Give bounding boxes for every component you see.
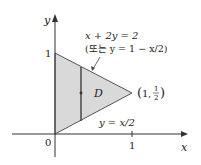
x-axis-arrow-icon xyxy=(181,131,188,137)
svg-text:1: 1 xyxy=(154,85,158,93)
svg-text:2: 2 xyxy=(154,94,158,102)
origin-label: 0 xyxy=(45,137,51,148)
strip-point xyxy=(80,92,83,95)
lower-curve-equation: y = x/2 xyxy=(98,117,135,128)
y-tick-label: 1 xyxy=(45,48,51,59)
region-label: D xyxy=(93,87,103,100)
annotation-pointer xyxy=(93,57,100,69)
upper-curve-alt-equation: (또는 y = 1 − x/2) xyxy=(85,43,167,54)
y-axis-arrow-icon xyxy=(52,14,58,22)
y-axis-label: y xyxy=(43,14,51,27)
svg-text:): ) xyxy=(160,85,165,100)
x-axis-label: x xyxy=(181,141,188,154)
svg-text:,: , xyxy=(148,88,151,99)
vertex-point-label: ( 1 , 1 2 ) xyxy=(137,85,165,102)
upper-curve-equation: x + 2y = 2 xyxy=(85,30,139,41)
diagram-canvas: y x 0 1 1 D x + 2y = 2 (또는 y = 1 − x/2) … xyxy=(0,0,201,165)
x-tick-label: 1 xyxy=(129,140,135,151)
